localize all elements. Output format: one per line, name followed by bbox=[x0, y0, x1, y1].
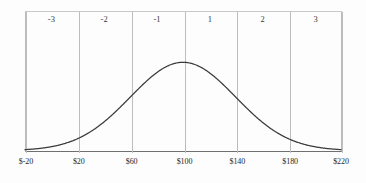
xtick-label-3: $100 bbox=[165, 157, 205, 167]
normal-distribution-chart: -3 -2 -1 1 2 3 $-20 $20 $60 $100 $140 $1… bbox=[0, 0, 366, 183]
band-label-minus1: -1 bbox=[131, 14, 184, 24]
gridline-sigma-plus2 bbox=[290, 12, 291, 153]
xtick-label-5: $180 bbox=[270, 157, 310, 167]
xtick-label-1: $20 bbox=[59, 157, 99, 167]
band-label-plus2: 2 bbox=[236, 14, 289, 24]
band-label-plus3: 3 bbox=[289, 14, 342, 24]
xtick-label-4: $140 bbox=[217, 157, 257, 167]
xtick-label-2: $60 bbox=[112, 157, 152, 167]
band-label-minus3: -3 bbox=[25, 14, 78, 24]
gridline-sigma-plus3 bbox=[342, 12, 343, 153]
band-label-plus1: 1 bbox=[184, 14, 237, 24]
band-label-minus2: -2 bbox=[78, 14, 131, 24]
gridline-sigma-minus1 bbox=[132, 12, 133, 153]
gridline-sigma-minus3 bbox=[26, 12, 27, 153]
xtick-label-0: $-20 bbox=[6, 157, 46, 167]
gridline-sigma-minus2 bbox=[79, 12, 80, 153]
plot-area bbox=[25, 11, 342, 152]
gridline-sigma-plus1 bbox=[237, 12, 238, 153]
gridline-mean bbox=[185, 12, 186, 153]
xtick-label-6: $220 bbox=[321, 157, 361, 167]
